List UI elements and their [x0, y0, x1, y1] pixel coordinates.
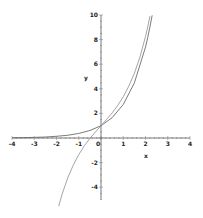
- x-tick-label: 1: [121, 140, 125, 147]
- x-tick-label: -2: [53, 140, 60, 147]
- x-axis-label: x: [144, 152, 148, 159]
- series-line-curve-1: [12, 15, 152, 137]
- x-tick-label: -4: [9, 140, 16, 147]
- chart: -4-3-2-101234108642-2-4 x y: [0, 0, 203, 218]
- x-tick-label: -3: [31, 140, 38, 147]
- x-tick-label: 2: [143, 140, 147, 147]
- y-tick-label: -2: [91, 159, 98, 166]
- y-axis-label: y: [84, 74, 88, 82]
- series: [12, 15, 152, 206]
- y-tick-label: 4: [94, 85, 98, 92]
- x-tick-label: 3: [166, 140, 170, 147]
- x-tick-label: 0: [96, 140, 100, 147]
- series-line-curve-2: [59, 16, 150, 206]
- y-tick-label: -4: [91, 183, 98, 190]
- y-tick-label: 10: [90, 11, 98, 18]
- y-tick-label: 2: [94, 109, 98, 116]
- y-tick-label: 6: [94, 60, 98, 67]
- y-tick-label: 8: [94, 36, 98, 43]
- x-tick-label: -1: [75, 140, 82, 147]
- ticks: -4-3-2-101234108642-2-4: [9, 11, 192, 200]
- x-tick-label: 4: [188, 140, 192, 147]
